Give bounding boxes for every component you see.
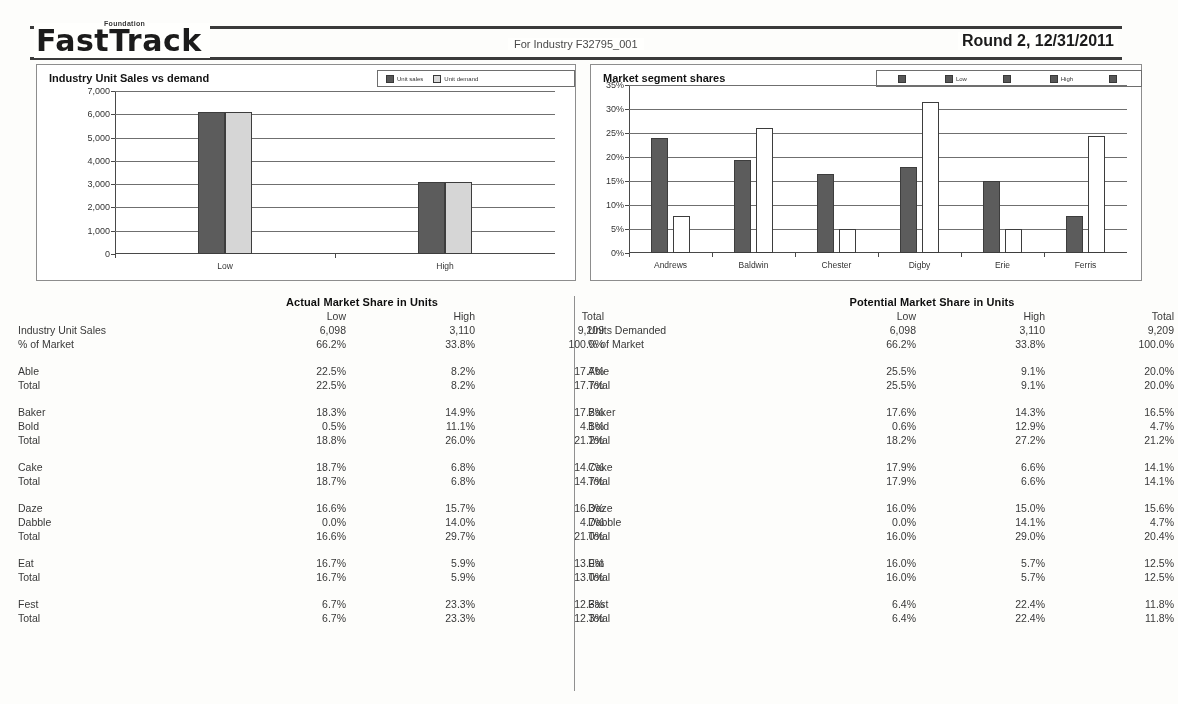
cell-low: 16.0%	[803, 529, 932, 543]
row-label: Total	[14, 378, 233, 392]
table-row: Total18.2%27.2%21.2%	[584, 433, 1178, 447]
y-axis-tick-label: 25%	[606, 128, 624, 138]
cell-high: 9.1%	[932, 378, 1061, 392]
table-row: Units Demanded6,0983,1109,209	[584, 323, 1178, 337]
cell-high: 33.8%	[932, 337, 1061, 351]
gridline	[629, 133, 1127, 134]
cell-high: 29.0%	[932, 529, 1061, 543]
cell-low: 6.4%	[803, 611, 932, 625]
legend-item-high: High	[1050, 75, 1073, 83]
y-axis-tick-label: 0	[105, 249, 110, 259]
cell-total: 11.8%	[1061, 597, 1178, 611]
x-axis-tick-label: High	[436, 261, 453, 271]
table-row: Industry Unit Sales6,0983,1109,209	[14, 323, 620, 337]
table-row: Total25.5%9.1%20.0%	[584, 378, 1178, 392]
table-spacer-row	[584, 584, 1178, 597]
y-axis-tick	[111, 91, 115, 92]
y-axis-tick	[625, 157, 629, 158]
row-label: Able	[14, 364, 233, 378]
column-header	[14, 310, 233, 323]
x-axis-tick-label: Low	[217, 261, 233, 271]
y-axis-tick-label: 7,000	[87, 86, 110, 96]
cell-high: 5.9%	[362, 570, 491, 584]
cell-low: 16.6%	[233, 529, 362, 543]
row-label: Total	[14, 529, 233, 543]
chart-left-title: Industry Unit Sales vs demand	[49, 72, 209, 84]
cell-high: 14.3%	[932, 405, 1061, 419]
row-label: Total	[584, 474, 803, 488]
table-row: Total18.8%26.0%21.2%	[14, 433, 620, 447]
y-axis-tick	[625, 85, 629, 86]
table-row: Daze16.6%15.7%16.3%	[14, 501, 620, 515]
y-axis-tick	[625, 109, 629, 110]
cell-low: 16.0%	[803, 501, 932, 515]
row-label: % of Market	[14, 337, 233, 351]
y-axis-tick-label: 15%	[606, 176, 624, 186]
row-label: Cake	[14, 460, 233, 474]
cell-high: 27.2%	[932, 433, 1061, 447]
cell-low: 6,098	[233, 323, 362, 337]
report-header: FastTrack Foundation For Industry F32795…	[30, 14, 1122, 60]
y-axis-tick-label: 20%	[606, 152, 624, 162]
chart-industry-unit-sales-vs-demand: Industry Unit Sales vs demand Unit sales…	[36, 64, 576, 281]
table-row: Total16.0%5.7%12.5%	[584, 570, 1178, 584]
table-row: Cake18.7%6.8%14.7%	[14, 460, 620, 474]
legend-swatch-icon	[898, 75, 906, 83]
cell-high: 33.8%	[362, 337, 491, 351]
cell-high: 6.6%	[932, 460, 1061, 474]
cell-high: 26.0%	[362, 433, 491, 447]
round-label: Round 2, 12/31/2011	[958, 32, 1118, 50]
y-axis-tick	[625, 205, 629, 206]
table-row: Daze16.0%15.0%15.6%	[584, 501, 1178, 515]
column-header: High	[932, 310, 1061, 323]
cell-total: 20.4%	[1061, 529, 1178, 543]
column-header	[584, 310, 803, 323]
cell-total: 20.0%	[1061, 378, 1178, 392]
row-label: Total	[14, 474, 233, 488]
row-label: Units Demanded	[584, 323, 803, 337]
legend-swatch-icon	[1003, 75, 1011, 83]
row-label: Total	[584, 570, 803, 584]
cell-low: 18.3%	[233, 405, 362, 419]
bar-unit-sales	[198, 112, 225, 254]
x-axis-tick-label: Baldwin	[739, 260, 769, 270]
cell-low: 18.8%	[233, 433, 362, 447]
table-spacer-row	[584, 543, 1178, 556]
cell-high: 14.9%	[362, 405, 491, 419]
row-label: Fast	[584, 597, 803, 611]
y-axis-tick-label: 2,000	[87, 202, 110, 212]
y-axis-tick-label: 30%	[606, 104, 624, 114]
gridline	[629, 157, 1127, 158]
table-row: Baker17.6%14.3%16.5%	[584, 405, 1178, 419]
table-row: Total6.4%22.4%11.8%	[584, 611, 1178, 625]
cell-high: 23.3%	[362, 597, 491, 611]
table-spacer-row	[584, 488, 1178, 501]
legend-swatch-icon	[945, 75, 953, 83]
cell-total: 4.7%	[1061, 419, 1178, 433]
cell-total: 12.5%	[1061, 570, 1178, 584]
gridline	[629, 109, 1127, 110]
bar-unit-demand	[445, 182, 472, 254]
row-label: % of Market	[584, 337, 803, 351]
cell-low: 22.5%	[233, 364, 362, 378]
cell-high: 15.0%	[932, 501, 1061, 515]
row-label: Total	[584, 378, 803, 392]
legend-swatch-icon	[1109, 75, 1117, 83]
x-axis-tick	[335, 254, 336, 258]
row-label: Baker	[14, 405, 233, 419]
y-axis-tick	[625, 133, 629, 134]
row-label: Fest	[14, 597, 233, 611]
cell-high: 8.2%	[362, 364, 491, 378]
actual-table-title: Actual Market Share in Units	[154, 296, 570, 308]
table-row: Dabble0.0%14.0%4.7%	[14, 515, 620, 529]
table-row: Total17.9%6.6%14.1%	[584, 474, 1178, 488]
bar-unit-demand	[225, 112, 252, 254]
cell-low: 16.6%	[233, 501, 362, 515]
y-axis-tick-label: 10%	[606, 200, 624, 210]
chart-left-plot-area: 01,0002,0003,0004,0005,0006,0007,000LowH…	[115, 91, 555, 254]
y-axis	[629, 85, 630, 253]
cell-high: 15.7%	[362, 501, 491, 515]
table-row: Able22.5%8.2%17.7%	[14, 364, 620, 378]
table-row: Eat16.7%5.9%13.0%	[14, 556, 620, 570]
table-header-row: LowHighTotal	[584, 310, 1178, 323]
